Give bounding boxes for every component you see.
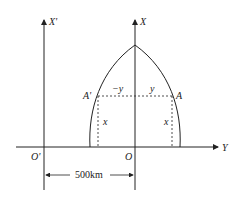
origin-label: O [125,151,132,162]
x-left-label: x [102,116,108,127]
origin-prime-label: O' [31,151,41,162]
y-axis-label: Y [222,142,229,153]
neg-y-label: −y [112,83,124,94]
point-a-label: A [175,90,183,101]
x-right-label: x [163,116,169,127]
distance-label: 500km [75,169,103,180]
x-prime-axis-label: X' [48,16,58,27]
x-axis-label: X [139,16,147,27]
point-a-prime-label: A' [82,90,92,101]
pos-y-label: y [149,83,155,94]
diagram-canvas: Y X' X A' A −y y x x O' O 500km [0,0,237,204]
